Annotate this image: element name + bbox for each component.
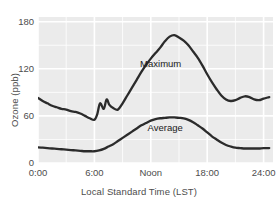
- x-axis-title: Local Standard Time (LST): [0, 186, 278, 197]
- ozone-diurnal-chart: Ozone (ppb) Local Standard Time (LST) 06…: [0, 0, 278, 199]
- x-tick-label: Noon: [126, 167, 176, 178]
- y-tick-label: 60: [8, 110, 34, 121]
- x-tick-label: 18:00: [182, 167, 232, 178]
- x-tick-label: 24:00: [239, 167, 278, 178]
- x-tick-label: 6:00: [69, 167, 119, 178]
- series-label-maximum: Maximum: [140, 58, 181, 69]
- x-tick-label: 0:00: [13, 167, 63, 178]
- y-tick-label: 120: [8, 63, 34, 74]
- panel-background: [38, 17, 273, 163]
- y-tick-label: 180: [8, 16, 34, 27]
- series-label-average: Average: [148, 122, 183, 133]
